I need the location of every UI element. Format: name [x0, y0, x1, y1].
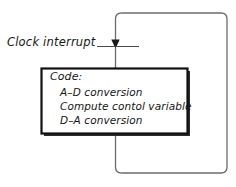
diagram-canvas: Clock interrupt Code: A–D conversion Com… — [0, 0, 236, 187]
loop-corner-top-right — [221, 13, 227, 19]
loop-corner-top-left — [116, 13, 122, 19]
loop-corner-bottom-left — [116, 167, 122, 173]
down-arrow-icon — [111, 40, 119, 49]
loop-corner-bottom-right — [221, 167, 227, 173]
diagram-graphics — [0, 0, 236, 187]
code-block-border — [42, 69, 188, 134]
arrow-head — [111, 40, 119, 49]
